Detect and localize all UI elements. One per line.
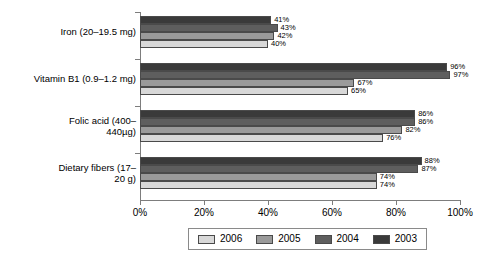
x-axis-tick-label: 80%	[374, 207, 418, 219]
x-axis-tick-label: 100%	[438, 207, 482, 219]
bar-value-label: 76%	[383, 132, 401, 143]
legend-label: 2005	[278, 233, 300, 245]
x-axis-tick	[268, 200, 269, 205]
x-axis-tick	[332, 200, 333, 205]
x-axis-tick	[460, 200, 461, 205]
bar	[140, 16, 271, 24]
bar	[140, 157, 422, 165]
bar	[140, 126, 402, 134]
bar-group: 41%43%42%40%	[140, 12, 460, 59]
legend-label: 2006	[220, 233, 242, 245]
bar	[140, 71, 450, 79]
legend-item: 2003	[373, 233, 417, 245]
category-label-line: Folic acid (400–	[4, 115, 136, 127]
bar	[140, 134, 383, 142]
legend-item: 2006	[198, 233, 242, 245]
x-axis-tick-label: 20%	[182, 207, 226, 219]
bar	[140, 40, 268, 48]
x-axis-tick-label: 60%	[310, 207, 354, 219]
bar-value-label: 82%	[402, 124, 420, 135]
bar	[140, 79, 354, 87]
legend-swatch	[373, 235, 390, 244]
legend-label: 2004	[337, 233, 359, 245]
y-axis-tick	[135, 12, 141, 13]
category-axis-labels: Iron (20–19.5 mg)Vitamin B1 (0.9–1.2 mg)…	[0, 0, 136, 200]
legend-item: 2004	[315, 233, 359, 245]
legend-swatch	[256, 235, 273, 244]
bar	[140, 118, 415, 126]
bar-value-label: 74%	[377, 179, 395, 190]
bar-group: 86%86%82%76%	[140, 106, 460, 153]
legend-swatch	[198, 235, 215, 244]
category-label: Dietary fibers (17–20 g)	[4, 162, 136, 185]
y-axis-tick	[135, 59, 141, 60]
bar-value-label: 87%	[418, 163, 436, 174]
category-label-line: 440µg)	[4, 126, 136, 138]
category-label-line: Iron (20–19.5 mg)	[4, 26, 136, 38]
bar-chart: Iron (20–19.5 mg)Vitamin B1 (0.9–1.2 mg)…	[0, 0, 485, 260]
category-label-line: Dietary fibers (17–	[4, 162, 136, 174]
legend-label: 2003	[395, 233, 417, 245]
bar	[140, 181, 377, 189]
chart-legend: 2006200520042003	[188, 228, 427, 250]
bar	[140, 87, 348, 95]
x-axis-line	[140, 200, 461, 201]
x-axis-tick	[204, 200, 205, 205]
x-axis-tick-label: 0%	[118, 207, 162, 219]
bar-group: 96%97%67%65%	[140, 59, 460, 106]
bar-value-label: 97%	[450, 69, 468, 80]
category-label: Iron (20–19.5 mg)	[4, 26, 136, 38]
y-axis-tick	[135, 106, 141, 107]
bar-value-label: 65%	[348, 85, 366, 96]
category-label: Vitamin B1 (0.9–1.2 mg)	[4, 73, 136, 85]
category-label-line: Vitamin B1 (0.9–1.2 mg)	[4, 73, 136, 85]
bar	[140, 32, 274, 40]
bar-group: 88%87%74%74%	[140, 153, 460, 200]
x-axis-tick-label: 40%	[246, 207, 290, 219]
bar	[140, 173, 377, 181]
bar-value-label: 40%	[268, 38, 286, 49]
bar	[140, 63, 447, 71]
x-axis-tick	[396, 200, 397, 205]
category-label: Folic acid (400–440µg)	[4, 115, 136, 138]
x-axis-tick	[140, 200, 141, 205]
category-label-line: 20 g)	[4, 173, 136, 185]
legend-swatch	[315, 235, 332, 244]
y-axis-tick	[135, 153, 141, 154]
bar	[140, 110, 415, 118]
legend-item: 2005	[256, 233, 300, 245]
bar	[140, 24, 278, 32]
plot-area: 41%43%42%40%96%97%67%65%86%86%82%76%88%8…	[140, 12, 460, 200]
